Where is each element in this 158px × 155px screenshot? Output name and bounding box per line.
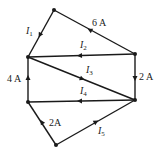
node-right-upper — [133, 52, 137, 56]
node-left-lower — [26, 100, 30, 104]
label-i1: I1 — [26, 26, 33, 38]
label-6a: 6 A — [92, 18, 106, 28]
arrow-2a-right-icon — [133, 76, 138, 81]
arrow-i3-icon — [79, 76, 86, 83]
circuit-diagram: I1 6 A I2 2 A I3 4 A I4 2A I5 — [0, 0, 158, 155]
label-4a: 4 A — [7, 74, 21, 84]
arrow-i4-icon — [77, 99, 82, 104]
node-bottom — [54, 143, 58, 147]
label-i2: I2 — [80, 40, 87, 52]
label-i3: I3 — [86, 65, 93, 77]
circuit-wires — [0, 0, 158, 155]
arrow-4a-icon — [26, 75, 31, 80]
node-right-lower — [133, 98, 137, 102]
arrow-i2-icon — [77, 53, 82, 58]
label-i5: I5 — [98, 126, 105, 138]
label-2a-right: 2 A — [139, 72, 153, 82]
node-left-upper — [26, 55, 30, 59]
label-2a-bottom: 2A — [49, 118, 61, 128]
node-top — [52, 8, 56, 12]
label-i4: I4 — [80, 86, 87, 98]
